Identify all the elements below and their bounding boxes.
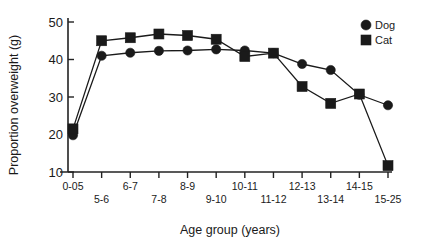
data-point [383, 101, 392, 110]
data-point [268, 48, 278, 58]
y-axis-title: Proportion overweight (g) [7, 35, 21, 175]
x-tick-label: 14-15 [346, 180, 373, 192]
data-point [97, 36, 107, 46]
legend-cat-marker-icon [361, 35, 371, 45]
y-axis-ticks [68, 22, 74, 172]
y-tick-label: 20 [49, 127, 63, 142]
data-point [326, 65, 335, 74]
x-tick-label: 11-12 [260, 193, 286, 205]
x-axis-ticks [73, 172, 388, 178]
data-point [125, 33, 135, 43]
y-tick-label: 30 [49, 90, 63, 105]
legend-cat-label: Cat [375, 34, 392, 46]
x-tick-label: 6-7 [123, 180, 138, 192]
legend-dog-label: Dog [375, 19, 395, 31]
data-point [354, 89, 364, 99]
line-chart-svg: Proportion overweight (g) 50 40 30 20 10… [0, 0, 435, 250]
data-point [126, 48, 135, 57]
x-tick-label: 12-13 [289, 180, 316, 192]
data-point [326, 98, 336, 108]
x-tick-labels: 0-055-66-77-88-99-1010-1111-1212-1313-14… [62, 180, 401, 205]
x-tick-label: 15-25 [375, 193, 402, 205]
chart-figure: Proportion overweight (g) 50 40 30 20 10… [0, 0, 435, 250]
x-tick-label: 9-10 [206, 193, 227, 205]
x-tick-label: 5-6 [94, 193, 109, 205]
series-layer [68, 29, 393, 171]
legend-dog-marker-icon [361, 20, 371, 30]
x-tick-label: 0-05 [62, 180, 83, 192]
data-point [154, 46, 163, 55]
y-tick-labels: 50 40 30 20 10 [49, 15, 63, 180]
series-line [73, 49, 388, 135]
x-axis-title: Age group (years) [180, 223, 280, 237]
data-point [240, 52, 250, 62]
data-point [68, 124, 78, 134]
data-point [183, 46, 192, 55]
x-tick-label: 8-9 [180, 180, 195, 192]
data-point [211, 34, 221, 44]
y-tick-label: 50 [49, 15, 63, 30]
chart-legend: Dog Cat [361, 19, 395, 46]
data-point [154, 29, 164, 39]
series-dog [68, 45, 392, 140]
data-point [212, 45, 221, 54]
x-tick-label: 7-8 [151, 193, 166, 205]
data-point [297, 59, 306, 68]
x-tick-label: 13-14 [317, 193, 344, 205]
x-tick-label: 10-11 [232, 180, 258, 192]
data-point [183, 31, 193, 41]
y-tick-label: 40 [49, 52, 63, 67]
data-point [297, 82, 307, 92]
data-point [383, 161, 393, 171]
